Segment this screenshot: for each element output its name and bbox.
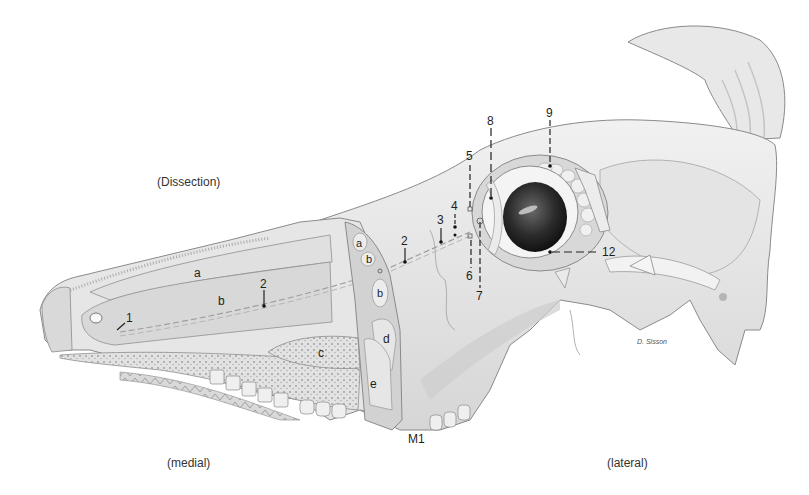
skull-dissection-figure: (Dissection) (medial) (lateral) D. Sisso…: [0, 0, 809, 495]
region-label-d: d: [383, 333, 390, 345]
number-label-5: 5: [466, 150, 473, 162]
number-label-4: 4: [451, 200, 458, 212]
eyeball: [503, 182, 567, 252]
number-label-1: 1: [126, 312, 133, 324]
region-label-e: e: [370, 378, 377, 390]
region-label-b-sinus-lower: b: [377, 288, 383, 299]
region-label-a-dorsal-concha: a: [194, 267, 201, 279]
number-label-6: 6: [466, 270, 473, 282]
caption-medial: (medial): [167, 456, 210, 470]
number-label-2-nasal: 2: [260, 278, 267, 290]
caption-lateral: (lateral): [607, 456, 648, 470]
number-label-9: 9: [546, 107, 553, 119]
region-label-b-ventral-concha: b: [218, 295, 225, 307]
region-label-c: c: [318, 347, 324, 359]
caption-dissection: (Dissection): [157, 175, 220, 189]
number-label-7: 7: [476, 290, 483, 302]
number-label-3: 3: [437, 214, 444, 226]
region-label-a-sinus: a: [356, 238, 362, 249]
region-label-b-sinus-upper: b: [366, 254, 372, 265]
artist-signature: D. Sisson: [637, 338, 667, 345]
region-label-m1: M1: [408, 433, 425, 445]
number-label-2-facial: 2: [401, 235, 408, 247]
number-label-8: 8: [487, 115, 494, 127]
number-label-12: 12: [602, 246, 615, 258]
